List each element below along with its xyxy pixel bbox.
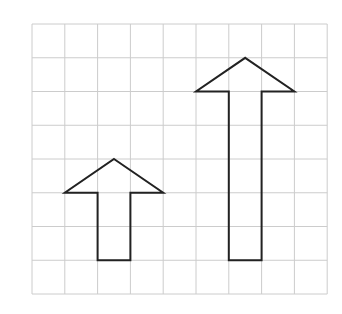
grid-diagram <box>0 0 342 314</box>
small-arrow <box>65 159 163 260</box>
grid-lines <box>32 24 327 294</box>
